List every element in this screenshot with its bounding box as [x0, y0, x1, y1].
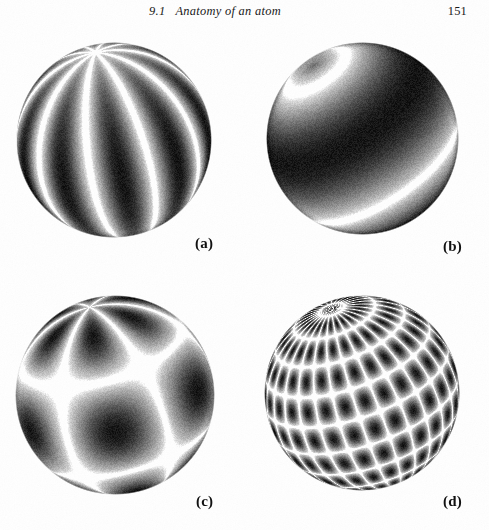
- sphere-image-b: [266, 42, 459, 235]
- running-head: 9.1 Anatomy of an atom 151: [0, 0, 489, 26]
- running-head-title: 9.1 Anatomy of an atom: [0, 4, 430, 19]
- scanned-page: 9.1 Anatomy of an atom 151 (a)(b)(c)(d): [0, 0, 489, 530]
- sphere-image-a: [16, 42, 212, 238]
- sphere-plot-c: [15, 295, 215, 495]
- sphere-plot-d: [264, 295, 460, 491]
- panel-caption-d: (d): [443, 494, 462, 509]
- page-number: 151: [448, 4, 467, 19]
- sphere-image-d: [264, 295, 460, 491]
- sphere-image-c: [15, 295, 215, 495]
- panel-caption-a: (a): [195, 236, 213, 251]
- sphere-plot-b: [266, 42, 459, 235]
- panel-caption-b: (b): [443, 239, 462, 254]
- panel-caption-c: (c): [196, 494, 213, 509]
- sphere-plot-a: [16, 42, 212, 238]
